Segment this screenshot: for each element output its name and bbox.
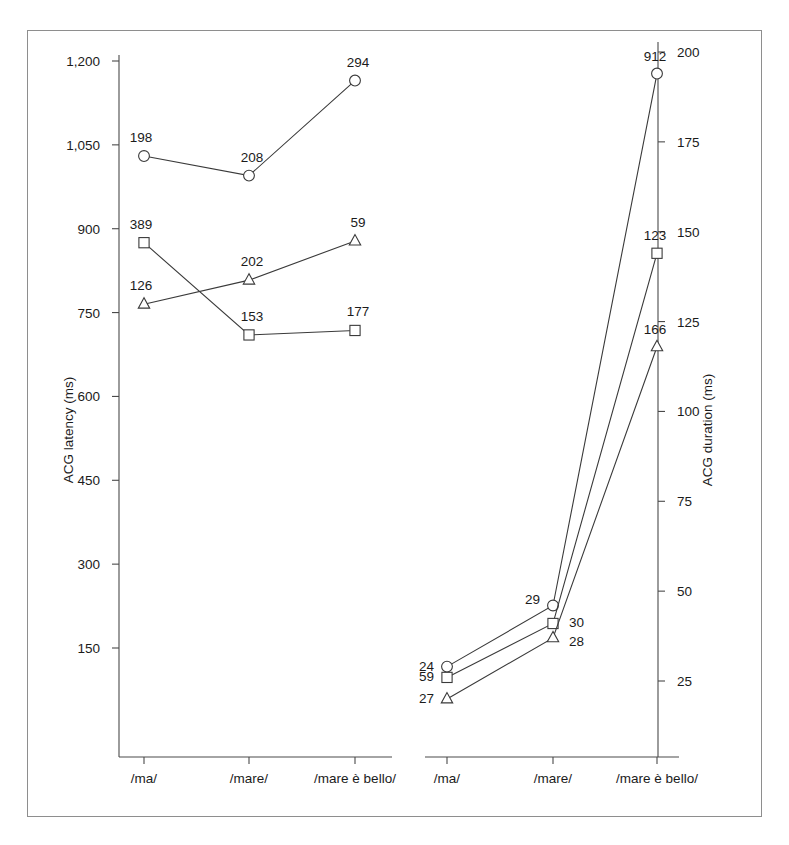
left-panel-square-series-point-label: 389 xyxy=(130,217,153,232)
right-panel-y-axis-title: ACG duration (ms) xyxy=(700,374,715,487)
left-panel-x-tick-label: /mare è bello/ xyxy=(314,771,396,786)
right-panel-y-tick-label: 75 xyxy=(677,494,692,509)
left-panel-y-tick-label: 1,200 xyxy=(66,54,100,69)
right-panel-square-series-point-label: 59 xyxy=(419,669,434,684)
right-panel-triangle-series-line xyxy=(447,347,657,699)
left-panel-square-series-marker xyxy=(139,238,149,248)
right-panel-y-tick-label: 100 xyxy=(677,404,700,419)
right-panel-square-series-marker xyxy=(442,672,452,682)
right-panel-circle-series-marker xyxy=(652,68,663,79)
right-panel-y-tick-label: 150 xyxy=(677,225,700,240)
left-panel-triangle-series-line xyxy=(144,241,355,304)
left-panel-circle-series-marker xyxy=(350,75,361,86)
right-panel-square-series-line xyxy=(447,253,657,677)
right-panel-y-tick-label: 125 xyxy=(677,315,700,330)
left-panel-circle-series-marker xyxy=(139,151,150,162)
right-panel: 255075100125150175200/ma//mare//mare è b… xyxy=(419,42,715,786)
left-panel-triangle-series-point-label: 202 xyxy=(241,254,264,269)
right-panel-y-tick-label: 200 xyxy=(677,45,700,60)
left-panel-triangle-series-marker xyxy=(349,235,360,245)
right-panel-triangle-series-point-label: 27 xyxy=(419,691,434,706)
left-panel-x-tick-label: /mare/ xyxy=(230,771,269,786)
left-panel-square-series-marker xyxy=(350,325,360,335)
left-panel-y-tick-label: 450 xyxy=(77,473,100,488)
right-panel-y-tick-label: 25 xyxy=(677,674,692,689)
left-panel-circle-series-marker xyxy=(244,170,255,181)
figure-page: 1503004506007509001,0501,200/ma//mare//m… xyxy=(0,0,789,845)
left-panel-circle-series-point-label: 294 xyxy=(347,55,370,70)
left-panel-square-series-point-label: 177 xyxy=(347,304,370,319)
right-panel-triangle-series-marker xyxy=(547,631,558,641)
left-panel-y-tick-label: 750 xyxy=(77,306,100,321)
right-panel-square-series-point-label: 123 xyxy=(644,228,667,243)
left-panel-y-tick-label: 1,050 xyxy=(66,138,100,153)
right-panel-triangle-series-point-label: 28 xyxy=(569,634,584,649)
right-panel-triangle-series-marker xyxy=(441,693,452,703)
left-panel-y-tick-label: 600 xyxy=(77,389,100,404)
left-panel-square-series-marker xyxy=(244,330,254,340)
left-panel-y-tick-label: 300 xyxy=(77,557,100,572)
right-panel-x-tick-label: /ma/ xyxy=(434,771,461,786)
left-panel-triangle-series-point-label: 126 xyxy=(130,278,153,293)
left-panel-circle-series-point-label: 198 xyxy=(130,130,153,145)
right-panel-triangle-series-marker xyxy=(651,340,662,350)
right-panel-x-tick-label: /mare/ xyxy=(534,771,573,786)
left-panel-y-tick-label: 900 xyxy=(77,222,100,237)
left-panel-y-tick-label: 150 xyxy=(77,641,100,656)
right-panel-y-tick-label: 175 xyxy=(677,135,700,150)
right-panel-circle-series-point-label: 29 xyxy=(525,592,540,607)
right-panel-x-tick-label: /mare è bello/ xyxy=(616,771,698,786)
left-panel: 1503004506007509001,0501,200/ma//mare//m… xyxy=(61,54,396,786)
right-panel-y-tick-label: 50 xyxy=(677,584,692,599)
right-panel-circle-series-point-label: 912 xyxy=(644,49,667,64)
chart-canvas: 1503004506007509001,0501,200/ma//mare//m… xyxy=(0,0,789,845)
right-panel-circle-series-marker xyxy=(442,661,453,672)
left-panel-square-series-point-label: 153 xyxy=(241,309,264,324)
right-panel-square-series-marker xyxy=(652,248,662,258)
right-panel-triangle-series-point-label: 166 xyxy=(644,322,667,337)
left-panel-triangle-series-point-label: 59 xyxy=(350,215,365,230)
left-panel-x-tick-label: /ma/ xyxy=(131,771,158,786)
right-panel-circle-series-line xyxy=(447,74,657,667)
left-panel-y-axis-title: ACG latency (ms) xyxy=(61,377,76,484)
left-panel-circle-series-point-label: 208 xyxy=(241,150,264,165)
right-panel-square-series-point-label: 30 xyxy=(569,615,584,630)
